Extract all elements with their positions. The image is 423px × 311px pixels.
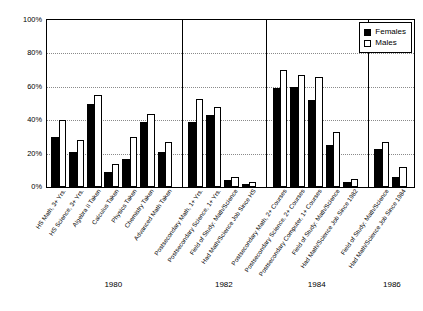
bar-females [51, 137, 58, 187]
bar-males [399, 167, 406, 187]
bar-females [104, 172, 111, 187]
bar-females [206, 115, 213, 187]
bar-females [188, 122, 195, 187]
bar-males [77, 140, 84, 187]
y-tick-label: 60% [0, 83, 42, 91]
bar-females [242, 184, 249, 187]
bar-males [196, 99, 203, 188]
y-tick-label: 40% [0, 116, 42, 124]
bar-males [382, 142, 389, 187]
bar-males [351, 179, 358, 187]
bars-container [47, 20, 414, 187]
bar-males [231, 177, 238, 187]
bar-males [130, 137, 137, 187]
bar-females [343, 182, 350, 187]
bar-males [112, 164, 119, 187]
bar-males [59, 120, 66, 187]
bar-females [392, 177, 399, 187]
bar-females [374, 149, 381, 187]
bar-females [290, 87, 297, 187]
bar-males [165, 142, 172, 187]
bar-females [69, 152, 76, 187]
bar-females [140, 122, 147, 187]
bar-males [333, 132, 340, 187]
bar-males [298, 75, 305, 187]
bar-females [308, 100, 315, 187]
bar-females [87, 104, 94, 188]
year-label: 1986 [383, 280, 401, 290]
year-label: 1984 [308, 280, 326, 290]
bar-females [158, 152, 165, 187]
bar-chart: 0%20%40%60%80%100% Females Males HS Math… [0, 0, 423, 311]
bar-males [94, 95, 101, 187]
bar-males [280, 70, 287, 187]
category-axis-labels: HS Math, 3+ Yrs.HS Science, 3+ Yrs.Algeb… [0, 188, 423, 268]
y-tick-label: 80% [0, 49, 42, 57]
bar-females [122, 159, 129, 187]
bar-females [273, 88, 280, 187]
y-axis-tick-labels: 0%20%40%60%80%100% [0, 19, 42, 188]
bar-males [214, 107, 221, 187]
y-tick-label: 20% [0, 150, 42, 158]
bar-females [224, 180, 231, 187]
y-tick-label: 100% [0, 16, 42, 24]
year-axis-labels: 1980198219841986 [0, 280, 423, 296]
bar-males [315, 77, 322, 187]
bar-females [326, 145, 333, 187]
year-label: 1982 [215, 280, 233, 290]
bar-males [147, 114, 154, 187]
year-label: 1980 [104, 280, 122, 290]
bar-males [249, 182, 256, 187]
